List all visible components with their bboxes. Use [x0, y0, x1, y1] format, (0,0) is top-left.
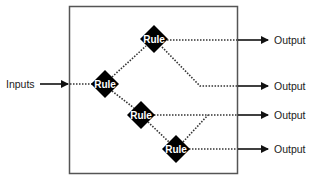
- output-label-4: Output: [274, 143, 306, 155]
- output-label-3: Output: [274, 109, 306, 121]
- output-arrows: [238, 40, 268, 149]
- dotted-connectors: [70, 40, 237, 149]
- inputs-label: Inputs: [6, 78, 35, 90]
- svg-text:Rule: Rule: [94, 79, 116, 90]
- svg-text:Rule: Rule: [165, 144, 187, 155]
- svg-text:Rule: Rule: [143, 34, 165, 45]
- output-label-2: Output: [274, 80, 306, 92]
- svg-text:Rule: Rule: [130, 110, 152, 121]
- rule-flow-diagram: Inputs Rule Rule Rule Rule: [0, 0, 310, 182]
- rule-node-top: Rule: [140, 25, 168, 53]
- output-label-1: Output: [274, 34, 306, 46]
